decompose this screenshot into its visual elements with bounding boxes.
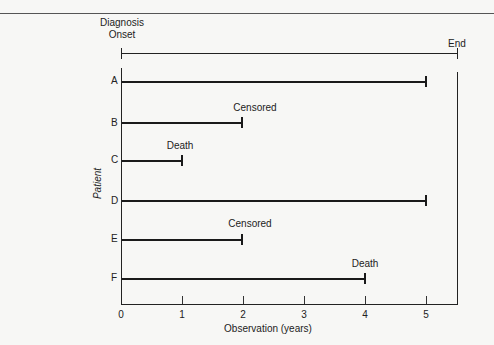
event-label-f: Death (352, 258, 379, 269)
bar-end-cap (425, 195, 427, 206)
x-tick-label: 4 (362, 309, 368, 320)
patient-bar-b (122, 122, 242, 124)
patient-label-b: B (111, 117, 118, 128)
bar-end-cap (364, 273, 366, 284)
x-tick (182, 296, 183, 304)
patient-label-e: E (111, 233, 118, 244)
onset-to-end-line (122, 53, 457, 54)
bar-end-cap (181, 155, 183, 166)
x-tick-label: 5 (423, 309, 429, 320)
patient-bar-a (122, 81, 426, 83)
patient-bar-f (122, 278, 365, 280)
y-axis-title: Patient (92, 168, 103, 199)
x-tick-label: 2 (240, 309, 246, 320)
x-tick (365, 296, 366, 304)
onset-line2: Onset (100, 29, 144, 41)
end-cap (457, 48, 458, 59)
right-border (457, 72, 458, 305)
patient-label-c: C (111, 154, 118, 165)
bar-end-cap (241, 234, 243, 245)
event-label-c: Death (167, 140, 194, 151)
event-label-e: Censored (228, 218, 271, 229)
header-rule (0, 13, 494, 14)
x-tick (243, 296, 244, 304)
x-tick-label: 3 (301, 309, 307, 320)
patient-label-f: F (111, 272, 117, 283)
y-axis (121, 68, 122, 305)
patient-label-d: D (111, 195, 118, 206)
bar-end-cap (425, 76, 427, 87)
onset-cap (121, 48, 122, 59)
event-label-b: Censored (233, 102, 276, 113)
patient-bar-e (122, 239, 242, 241)
x-tick-label: 0 (118, 309, 124, 320)
patient-label-a: A (111, 75, 118, 86)
x-axis (121, 304, 458, 305)
patient-bar-c (122, 160, 181, 162)
x-tick-label: 1 (179, 309, 185, 320)
diagnosis-onset-label: Diagnosis Onset (100, 17, 144, 41)
x-tick (426, 296, 427, 304)
x-tick (304, 296, 305, 304)
bar-end-cap (241, 117, 243, 128)
onset-line1: Diagnosis (100, 17, 144, 29)
x-axis-title: Observation (years) (224, 323, 312, 334)
patient-bar-d (122, 200, 426, 202)
